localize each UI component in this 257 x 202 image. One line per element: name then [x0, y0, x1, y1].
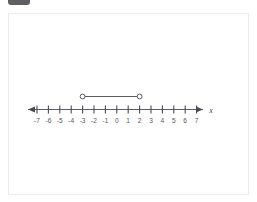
- interval-open-endpoint-left: [80, 94, 85, 99]
- tick-label: -5: [57, 117, 63, 124]
- tick-label: 0: [115, 117, 119, 124]
- tick-label: -7: [34, 117, 40, 124]
- tick-label: -6: [45, 117, 51, 124]
- tick-label: 6: [183, 117, 187, 124]
- axis-variable-label: x: [208, 106, 213, 115]
- tick-label: -2: [91, 117, 97, 124]
- tick-label: -3: [80, 117, 86, 124]
- tick-label: 1: [126, 117, 130, 124]
- tick-label: -1: [102, 117, 108, 124]
- tick-label: 4: [161, 117, 165, 124]
- tick-label: 2: [138, 117, 142, 124]
- number-line-figure: -7 -6 -5 -4 -3 -2 -1 0 1 2 3 4 5 6 7 x: [9, 14, 250, 196]
- interval-open-endpoint-right: [137, 94, 142, 99]
- number-line-svg: -7 -6 -5 -4 -3 -2 -1 0 1 2 3 4 5 6 7 x: [9, 14, 250, 196]
- tick-label: 5: [172, 117, 176, 124]
- tick-label: -4: [68, 117, 74, 124]
- tick-label: 3: [149, 117, 153, 124]
- top-left-badge: [8, 0, 30, 5]
- tick-label-group: -7 -6 -5 -4 -3 -2 -1 0 1 2 3 4 5 6 7: [34, 117, 199, 124]
- tick-label: 7: [195, 117, 199, 124]
- solution-interval-group: [80, 94, 142, 99]
- figure-panel: -7 -6 -5 -4 -3 -2 -1 0 1 2 3 4 5 6 7 x: [8, 13, 249, 195]
- axis-arrow-left-icon: [28, 107, 35, 113]
